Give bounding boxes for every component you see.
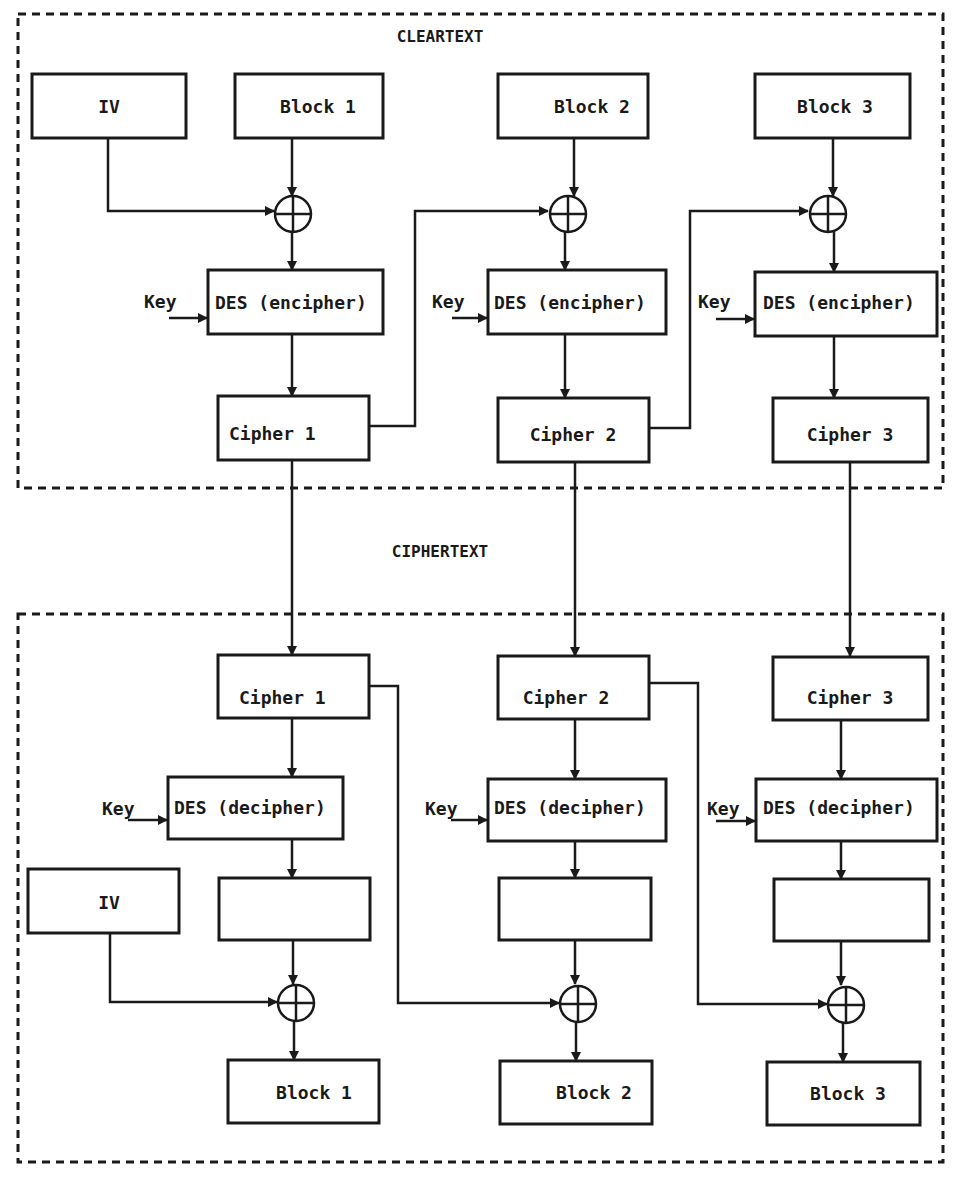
des-decipher-2: DES (decipher): [488, 779, 666, 841]
key-label: Key: [432, 291, 465, 312]
svg-text:Block 2: Block 2: [554, 96, 630, 117]
xor-circle-plus-icon: [810, 196, 846, 232]
key-label: Key: [102, 798, 135, 819]
svg-text:DES (encipher): DES (encipher): [494, 292, 646, 313]
svg-text:Cipher 3: Cipher 3: [807, 687, 894, 708]
intermediate-box-1: [219, 878, 370, 940]
cbc-diagram: CLEARTEXT IV Block 1 Block 2 Block 3: [0, 0, 959, 1178]
xor-circle-plus-icon: [275, 196, 311, 232]
xor-circle-plus-icon: [828, 987, 864, 1023]
svg-text:Cipher 1: Cipher 1: [229, 423, 316, 444]
block-3-bottom: Block 3: [767, 1062, 920, 1125]
svg-text:Block 1: Block 1: [280, 96, 356, 117]
svg-text:Cipher 1: Cipher 1: [239, 687, 326, 708]
svg-text:Cipher 3: Cipher 3: [807, 424, 894, 445]
svg-text:Block 2: Block 2: [556, 1082, 632, 1103]
cleartext-title: CLEARTEXT: [397, 27, 484, 46]
svg-text:IV: IV: [98, 892, 120, 913]
cipher-1-top: Cipher 1: [218, 396, 369, 460]
ciphertext-title: CIPHERTEXT: [392, 542, 488, 561]
key-label: Key: [698, 291, 731, 312]
svg-text:DES (decipher): DES (decipher): [174, 797, 326, 818]
iv-box-top: IV: [32, 74, 186, 138]
key-label: Key: [144, 291, 177, 312]
svg-text:Block 1: Block 1: [276, 1082, 352, 1103]
intermediate-box-2: [499, 878, 651, 940]
svg-text:DES (encipher): DES (encipher): [763, 292, 915, 313]
svg-text:Block 3: Block 3: [810, 1083, 886, 1104]
des-encipher-2: DES (encipher): [488, 270, 666, 334]
des-decipher-3: DES (decipher): [756, 779, 937, 841]
des-encipher-3: DES (encipher): [755, 272, 937, 336]
cipher-2-bottom: Cipher 2: [498, 656, 649, 719]
block-2-bottom: Block 2: [500, 1061, 652, 1124]
cipher-3-bottom: Cipher 3: [773, 657, 928, 720]
xor-circle-plus-icon: [550, 196, 586, 232]
key-label: Key: [707, 798, 740, 819]
block-2-top: Block 2: [498, 74, 648, 138]
svg-text:DES (decipher): DES (decipher): [494, 797, 646, 818]
block-1-top: Block 1: [235, 74, 383, 138]
block-1-bottom: Block 1: [228, 1060, 379, 1123]
xor-circle-plus-icon: [560, 986, 596, 1022]
cipher-2-top: Cipher 2: [498, 398, 649, 462]
cipher-3-top: Cipher 3: [773, 398, 928, 462]
svg-text:Block 3: Block 3: [797, 96, 873, 117]
des-decipher-1: DES (decipher): [168, 777, 343, 839]
des-encipher-1: DES (encipher): [208, 270, 383, 334]
block-3-top: Block 3: [755, 74, 910, 138]
xor-circle-plus-icon: [278, 985, 314, 1021]
svg-text:DES (decipher): DES (decipher): [763, 797, 915, 818]
intermediate-box-3: [774, 879, 929, 941]
cipher-1-bottom: Cipher 1: [218, 655, 369, 718]
svg-text:DES (encipher): DES (encipher): [215, 292, 367, 313]
iv-box-bottom: IV: [28, 869, 179, 933]
key-label: Key: [425, 798, 458, 819]
svg-text:Cipher 2: Cipher 2: [530, 424, 617, 445]
svg-text:IV: IV: [98, 96, 120, 117]
svg-text:Cipher 2: Cipher 2: [523, 687, 610, 708]
